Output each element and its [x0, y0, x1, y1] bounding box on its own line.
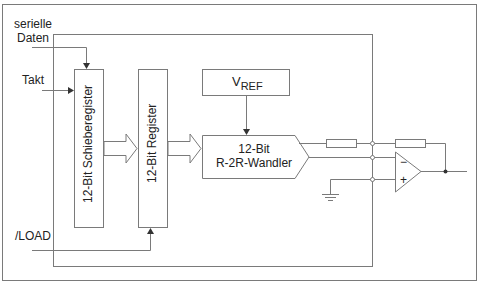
- junction-dot-icon: [444, 170, 448, 174]
- opamp-minus-label: −: [400, 156, 407, 169]
- bus-arrow-1-icon: [104, 134, 137, 163]
- opamp-plus-label: +: [400, 174, 407, 187]
- converter-label-2: R-2R-Wandler: [214, 157, 294, 170]
- register-label: 12-Bit Register: [146, 104, 159, 183]
- node-icon: [371, 178, 375, 182]
- vref-label: VREF: [232, 75, 263, 93]
- ground-wire: [331, 180, 396, 195]
- serial-data-label-2: Daten: [17, 32, 49, 45]
- clock-arrow-icon: [68, 87, 74, 94]
- feedback-wire: [426, 144, 446, 172]
- serial-data-arrow-icon: [83, 63, 90, 69]
- node-icon: [371, 142, 375, 146]
- vref-sub: REF: [241, 80, 263, 92]
- shift-register-label: 12-Bit Schieberegister: [82, 85, 95, 203]
- node-icon: [371, 156, 375, 160]
- clock-label: Takt: [22, 74, 44, 87]
- vref-main: V: [232, 74, 241, 89]
- resistor-2-icon: [396, 140, 426, 148]
- vref-arrow-icon: [243, 129, 250, 135]
- serial-data-line: [32, 48, 87, 67]
- load-label: /LOAD: [15, 230, 51, 243]
- serial-data-label-1: serielle: [14, 18, 52, 31]
- ground-icon: [322, 195, 339, 201]
- load-arrow-icon: [147, 228, 154, 234]
- bus-arrow-2-icon: [168, 134, 201, 163]
- resistor-1-icon: [327, 140, 357, 148]
- converter-label-1: 12-Bit: [214, 143, 294, 156]
